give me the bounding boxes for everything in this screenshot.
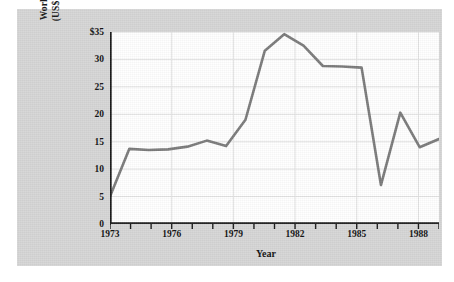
y-axis-tick-label: 20 <box>64 109 104 119</box>
y-axis-tick-label: 10 <box>64 164 104 174</box>
x-axis-title: Year <box>93 248 439 259</box>
line-chart-graphic <box>110 32 439 224</box>
x-axis-tick-label: 1976 <box>147 229 197 239</box>
x-axis-tick-label: 1988 <box>393 229 443 239</box>
y-axis-tick-label: 15 <box>64 137 104 147</box>
y-axis-title-line1: World oil prices <box>38 0 50 62</box>
y-axis-tick-label: 25 <box>64 82 104 92</box>
plot-wrapper: World oil prices (US$ per barrel) 051015… <box>93 32 439 224</box>
y-axis-tick-label: 5 <box>64 192 104 202</box>
x-axis-tick-label: 1973 <box>85 229 135 239</box>
y-axis-tick-label: 30 <box>64 54 104 64</box>
y-axis-title-line2: (US$ per barrel) <box>50 0 62 62</box>
y-axis-tick-label: $35 <box>64 27 104 37</box>
data-line <box>110 34 439 196</box>
figure-panel: World oil prices (US$ per barrel) 051015… <box>17 9 442 266</box>
x-axis-tick-label: 1979 <box>208 229 258 239</box>
gridlines <box>110 32 439 224</box>
data-series-group <box>110 34 439 196</box>
y-axis-title: World oil prices (US$ per barrel) <box>38 0 62 62</box>
y-axis-tick-label: 0 <box>64 219 104 229</box>
x-axis-tick-label: 1982 <box>270 229 320 239</box>
x-axis-tick-label: 1985 <box>332 229 382 239</box>
plot-area <box>110 32 439 224</box>
